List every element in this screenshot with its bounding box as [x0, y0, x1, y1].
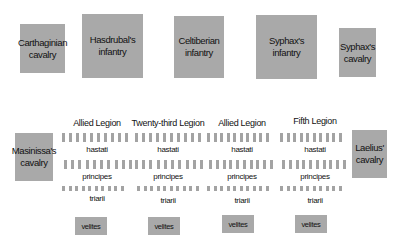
maniple-bar: [62, 133, 65, 142]
maniple-bar: [302, 160, 305, 169]
triarii-label: triarii: [205, 196, 279, 205]
maniple-bar: [280, 133, 283, 142]
triarii-label: triarii: [60, 194, 134, 203]
maniple-bar: [150, 186, 153, 191]
legion-allied-right: Allied Legion hastati principes triarii …: [205, 118, 279, 238]
hastati-label: hastati: [131, 145, 205, 154]
maniple-bar: [178, 160, 181, 169]
maniple-bar: [170, 133, 173, 142]
legion-title: Twenty-third Legion: [131, 118, 205, 128]
maniple-bar: [83, 133, 86, 142]
maniple-bar: [75, 186, 78, 191]
maniple-bar: [323, 160, 326, 169]
unit-label: Celtiberian: [178, 35, 219, 47]
maniple-bar: [236, 160, 239, 169]
maniple-bar: [240, 186, 243, 191]
principes-maniples: [64, 160, 132, 169]
syphaxs-infantry-box: Syphax'sinfantry: [256, 15, 317, 79]
maniple-bar: [339, 186, 342, 191]
unit-label: cavalry: [18, 49, 67, 61]
maniple-bar: [309, 160, 312, 169]
maniple-bar: [300, 133, 303, 142]
triarii-maniples: [207, 186, 269, 191]
maniple-bar: [69, 133, 72, 142]
maniple-bar: [196, 186, 199, 191]
carthaginian-cavalry-box: Carthaginiancavalry: [20, 24, 65, 73]
principes-maniples: [282, 160, 346, 169]
maniple-bar: [121, 186, 124, 191]
maniple-bar: [233, 186, 236, 191]
maniple-bar: [71, 160, 74, 169]
maniple-bar: [227, 133, 230, 142]
unit-label: cavalry: [12, 157, 56, 169]
hastati-maniples: [135, 133, 201, 142]
maniple-bar: [326, 186, 329, 191]
maniple-bar: [125, 133, 128, 142]
maniple-bar: [142, 133, 145, 142]
velites-box: velites: [148, 217, 180, 235]
maniple-bar: [122, 160, 125, 169]
maniple-bar: [100, 160, 103, 169]
maniple-bar: [207, 133, 210, 142]
maniple-bar: [198, 133, 201, 142]
maniple-bar: [250, 160, 253, 169]
maniple-bar: [78, 160, 81, 169]
maniple-bar: [189, 186, 192, 191]
maniple-bar: [282, 160, 285, 169]
maniple-bar: [186, 160, 189, 169]
maniple-bar: [259, 133, 262, 142]
maniple-bar: [253, 186, 256, 191]
maniple-bar: [183, 186, 186, 191]
maniple-bar: [107, 160, 110, 169]
principes-label: principes: [205, 172, 279, 181]
velites-box: velites: [75, 217, 107, 235]
unit-label: Carthaginian: [18, 37, 67, 49]
principes-label: principes: [278, 172, 352, 181]
maniple-bar: [90, 133, 93, 142]
maniple-bar: [316, 160, 319, 169]
masinissas-cavalry-box: Masinissa'scavalry: [15, 133, 53, 181]
maniple-bar: [69, 186, 72, 191]
maniple-bar: [149, 160, 152, 169]
maniple-bar: [266, 133, 269, 142]
unit-label: cavalry: [355, 154, 384, 166]
maniple-bar: [135, 133, 138, 142]
maniple-bar: [184, 133, 187, 142]
maniple-bar: [144, 186, 147, 191]
maniple-bar: [280, 186, 283, 191]
maniple-bar: [293, 186, 296, 191]
unit-label: Masinissa's: [12, 145, 56, 157]
maniple-bar: [220, 186, 223, 191]
maniple-bar: [207, 186, 210, 191]
maniple-bar: [209, 160, 212, 169]
maniple-bar: [223, 160, 226, 169]
maniple-bar: [240, 133, 243, 142]
maniple-bar: [114, 186, 117, 191]
hastati-label: hastati: [278, 145, 352, 154]
maniple-bar: [339, 133, 342, 142]
maniple-bar: [82, 186, 85, 191]
maniple-bar: [332, 186, 335, 191]
maniple-bar: [253, 133, 256, 142]
maniple-bar: [156, 133, 159, 142]
maniple-bar: [289, 160, 292, 169]
maniple-bar: [326, 133, 329, 142]
velites-box: velites: [295, 215, 327, 233]
unit-label: Hasdrubal's: [90, 34, 135, 46]
maniple-bar: [332, 133, 335, 142]
maniple-bar: [108, 186, 111, 191]
hastati-maniples: [207, 133, 269, 142]
unit-label: Syphax's: [269, 35, 304, 47]
legion-twenty-third: Twenty-third Legion hastati principes tr…: [131, 118, 205, 238]
maniple-bar: [142, 160, 145, 169]
maniple-bar: [256, 160, 259, 169]
maniple-bar: [157, 186, 160, 191]
maniple-bar: [177, 133, 180, 142]
triarii-maniples: [280, 186, 342, 191]
unit-label: Laelius': [355, 142, 384, 154]
legion-fifth: Fifth Legion hastati principes triarii v…: [278, 116, 352, 236]
celtiberian-infantry-box: Celtiberianinfantry: [174, 16, 224, 78]
unit-label: cavalry: [340, 53, 375, 65]
principes-label: principes: [131, 172, 205, 181]
maniple-bar: [300, 186, 303, 191]
